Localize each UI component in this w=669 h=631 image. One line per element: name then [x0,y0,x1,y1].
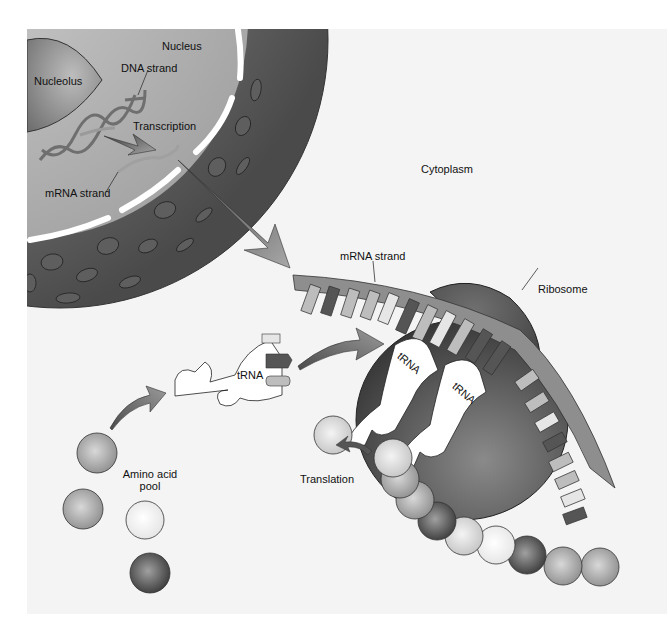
diagram-artwork [0,0,669,631]
label-amino-acid-pool-line2: pool [140,480,161,492]
label-amino-acid-pool: Amino acid pool [122,468,178,492]
label-ribosome: Ribosome [538,283,588,295]
label-mrna-strand-nucleus: mRNA strand [45,187,110,199]
label-trna-free: tRNA [237,369,263,381]
label-amino-acid-pool-line1: Amino acid [123,468,177,480]
label-transcription: Transcription [133,120,196,132]
label-cytoplasm: Cytoplasm [421,163,473,175]
label-mrna-strand-cytoplasm: mRNA strand [340,250,405,262]
label-nucleolus: Nucleolus [34,75,82,87]
label-nucleus: Nucleus [162,40,202,52]
label-translation: Translation [300,473,354,485]
protein-synthesis-diagram: Nucleus Nucleolus DNA strand Transcripti… [0,0,669,631]
label-dna-strand: DNA strand [121,62,177,74]
